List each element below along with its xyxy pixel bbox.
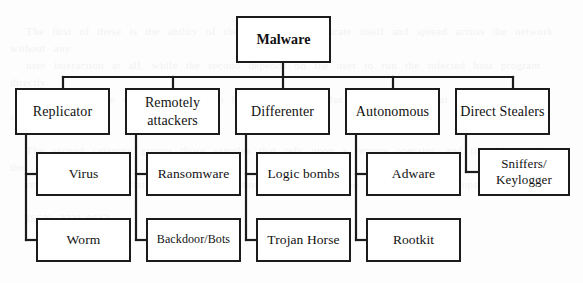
node-label: Direct Stealers xyxy=(460,104,544,120)
node-label: Logic bombs xyxy=(268,166,340,181)
node-label: Virus xyxy=(69,166,99,181)
node-direct-stealers[interactable]: Direct Stealers xyxy=(455,88,550,135)
node-autonomous[interactable]: Autonomous xyxy=(345,88,440,135)
node-differenter[interactable]: Differenter xyxy=(235,88,330,135)
node-rootkit[interactable]: Rootkit xyxy=(366,218,461,262)
node-backdoor-bots[interactable]: Backdoor/Bots xyxy=(146,218,241,262)
node-logic-bombs[interactable]: Logic bombs xyxy=(256,152,351,196)
node-label: Rootkit xyxy=(393,232,434,247)
node-label-line1: Sniffers/ xyxy=(501,156,546,172)
node-label: Replicator xyxy=(33,104,92,120)
node-remotely-attackers[interactable]: Remotely attackers xyxy=(125,88,220,135)
node-trojan-horse[interactable]: Trojan Horse xyxy=(256,218,351,262)
node-label: Malware xyxy=(256,32,310,48)
node-sniffers-keylogger[interactable]: Sniffers/ Keylogger xyxy=(478,148,570,196)
node-label: Worm xyxy=(67,232,101,247)
node-replicator[interactable]: Replicator xyxy=(15,88,110,135)
node-label: Differenter xyxy=(251,104,314,120)
node-malware[interactable]: Malware xyxy=(236,16,331,63)
node-label: Adware xyxy=(392,166,435,181)
node-ransomware[interactable]: Ransomware xyxy=(146,152,241,196)
node-label: Ransomware xyxy=(158,166,229,181)
node-label: Autonomous xyxy=(356,104,429,120)
malware-taxonomy-diagram: The first of these is the ability of the… xyxy=(0,0,583,283)
node-label-line2: Keylogger xyxy=(496,172,552,188)
node-label-line1: Remotely xyxy=(145,94,200,111)
node-label: Backdoor/Bots xyxy=(157,233,230,246)
node-worm[interactable]: Worm xyxy=(36,218,131,262)
node-label-line2: attackers xyxy=(147,112,198,129)
node-adware[interactable]: Adware xyxy=(366,152,461,196)
node-virus[interactable]: Virus xyxy=(36,152,131,196)
node-label: Trojan Horse xyxy=(267,232,339,247)
